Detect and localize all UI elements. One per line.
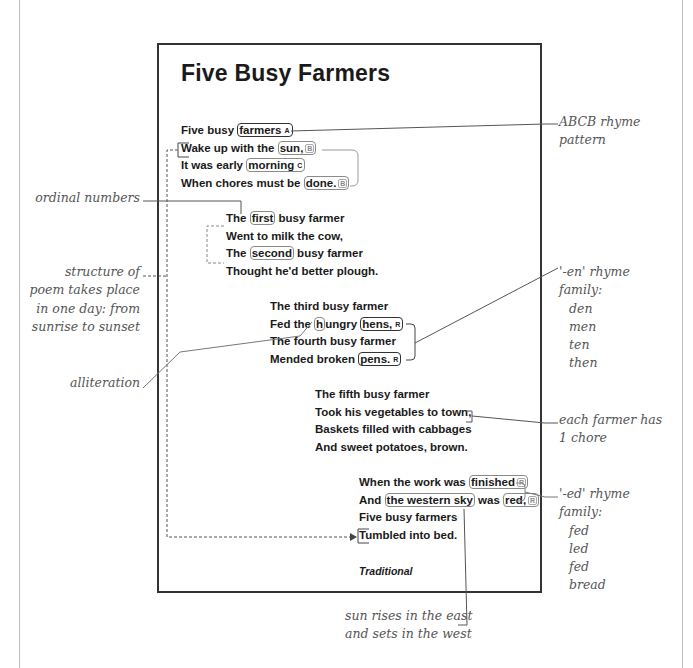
stanza-2: The first busy farmer Went to milk the c… (226, 210, 378, 280)
stanza-1: Five busy farmersA Wake up with the sun,… (181, 122, 349, 192)
poem-line: The first busy farmer (226, 210, 378, 228)
highlighted-word: first (250, 211, 276, 225)
rhyme-tag: A (283, 127, 290, 134)
poem-line: When the work was finishedR (359, 474, 539, 492)
poem-line: The third busy farmer (270, 298, 403, 316)
highlighted-letter: hens,R (360, 317, 403, 331)
poem-line: The second busy farmer (226, 245, 378, 263)
rhyme-word: then (559, 354, 630, 372)
rhyme-tag: B (338, 179, 347, 188)
page-edge-right (682, 0, 683, 668)
poem-line: It was early morningC (181, 157, 349, 175)
poem-line: And the western sky was red,R (359, 492, 539, 510)
annotation-structure: structure of poem takes place in one day… (30, 263, 140, 336)
rhyme-word: fed (559, 522, 630, 540)
poem-line: Fed the hungry hens,R (270, 316, 403, 334)
annotation-ed-family: '-ed' rhyme family: fed led fed bread (559, 485, 630, 595)
poem-line: When chores must be done.B (181, 175, 349, 193)
poem-line: Went to milk the cow, (226, 228, 378, 246)
poem-line: Tumbled into bed. (359, 527, 539, 545)
rhyme-word: men (559, 318, 630, 336)
stanza-4: The fifth busy farmer Took his vegetable… (315, 386, 472, 456)
highlighted-word: morningC (246, 158, 305, 172)
poem-title: Five Busy Farmers (181, 60, 390, 87)
rhyme-word: bread (559, 576, 630, 594)
annotation-alliteration: alliteration (70, 374, 140, 392)
rhyme-word: ten (559, 336, 630, 354)
rhyme-tag: R (517, 478, 526, 487)
annotation-en-family: '-en' rhyme family: den men ten then (559, 263, 630, 373)
poem-line: Wake up with the sun,B (181, 140, 349, 158)
rhyme-tag: R (528, 496, 537, 505)
highlighted-letter: h (314, 317, 325, 331)
annotation-ordinal-numbers: ordinal numbers (35, 189, 140, 207)
poem-credit: Traditional (359, 565, 412, 577)
rhyme-tag: B (305, 144, 314, 153)
rhyme-tag: C (296, 162, 303, 169)
poem-line: Five busy farmersA (181, 122, 349, 140)
highlighted-word: farmersA (237, 123, 292, 137)
rhyme-tag: R (394, 321, 401, 328)
rhyme-word: den (559, 300, 630, 318)
highlighted-word: sun,B (278, 141, 317, 155)
annotation-rhyme-pattern: ABCB rhyme pattern (559, 113, 641, 150)
rhyme-word: fed (559, 558, 630, 576)
poem-line: And sweet potatoes, brown. (315, 439, 472, 457)
highlighted-word: finishedR (469, 475, 528, 489)
highlighted-word: second (250, 246, 294, 260)
poem-line: Took his vegetables to town, (315, 404, 472, 422)
rhyme-word: led (559, 540, 630, 558)
rhyme-tag: R (392, 356, 399, 363)
poem-line: Mended broken pens.R (270, 351, 403, 369)
highlighted-word: red,R (503, 493, 539, 507)
poem-line: Baskets filled with cabbages (315, 421, 472, 439)
poem-line: Thought he'd better plough. (226, 263, 378, 281)
poem-line: The fifth busy farmer (315, 386, 472, 404)
annotation-sun-east-west: sun rises in the east and sets in the we… (345, 607, 472, 644)
annotation-one-chore: each farmer has 1 chore (559, 411, 662, 448)
highlighted-phrase: the western sky (385, 493, 475, 507)
highlighted-word: done.B (304, 176, 350, 190)
poem-line: Five busy farmers (359, 509, 539, 527)
highlighted-word: pens.R (358, 352, 401, 366)
page-edge-left (19, 0, 20, 668)
stanza-5: When the work was finishedR And the west… (359, 474, 539, 544)
poem-line: The fourth busy farmer (270, 333, 403, 351)
stanza-3: The third busy farmer Fed the hungry hen… (270, 298, 403, 368)
